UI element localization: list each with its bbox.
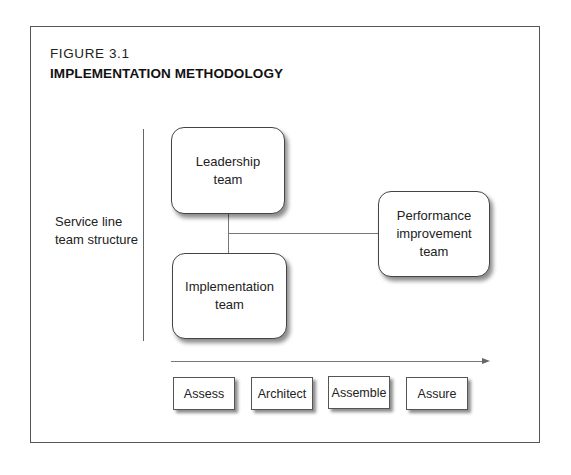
phase-architect: Architect	[251, 377, 313, 410]
team-structure-label: Service line team structure	[55, 213, 138, 249]
phase-assure: Assure	[406, 377, 468, 410]
team-structure-label-line1: Service line	[55, 213, 138, 231]
team-structure-label-line2: team structure	[55, 231, 138, 249]
performance-team-line1: Performance	[396, 207, 471, 225]
arrow-right-icon	[482, 358, 490, 364]
connector-horizontal	[228, 233, 378, 234]
performance-team-line2: improvement	[396, 225, 471, 243]
timeline-arrow-line	[171, 361, 483, 362]
implementation-team-box: Implementation team	[172, 253, 287, 339]
performance-team-line3: team	[396, 243, 471, 261]
phase-assess: Assess	[173, 377, 235, 410]
phase-assemble: Assemble	[328, 376, 390, 409]
implementation-team-line1: Implementation	[185, 278, 274, 296]
figure-title: IMPLEMENTATION METHODOLOGY	[50, 66, 283, 81]
performance-improvement-team-box: Performance improvement team	[378, 191, 490, 277]
connector-vertical	[228, 214, 229, 254]
implementation-team-line2: team	[185, 296, 274, 314]
leadership-team-line2: team	[196, 171, 260, 189]
leadership-team-line1: Leadership	[196, 153, 260, 171]
figure-number: FIGURE 3.1	[50, 46, 130, 61]
leadership-team-box: Leadership team	[171, 127, 285, 214]
team-structure-divider	[143, 129, 144, 341]
